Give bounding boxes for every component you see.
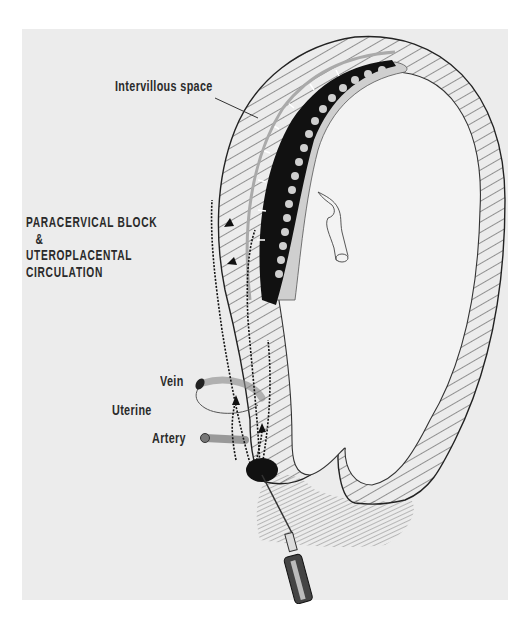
label-intervillous-space: Intervillous space [115, 77, 213, 94]
anesthetic-blot [246, 458, 278, 482]
label-uterine: Uterine [112, 401, 152, 418]
uterine-artery [201, 434, 246, 443]
uterus-diagram [0, 0, 530, 622]
label-vein: Vein [160, 372, 184, 389]
title-line-2: & [26, 231, 157, 248]
label-artery: Artery [152, 429, 186, 446]
figure-title: PARACERVICAL BLOCK & UTEROPLACENTAL CIRC… [26, 214, 157, 280]
title-line-4: CIRCULATION [26, 264, 157, 281]
title-line-3: UTEROPLACENTAL [26, 247, 157, 264]
title-line-1: PARACERVICAL BLOCK [26, 214, 157, 231]
